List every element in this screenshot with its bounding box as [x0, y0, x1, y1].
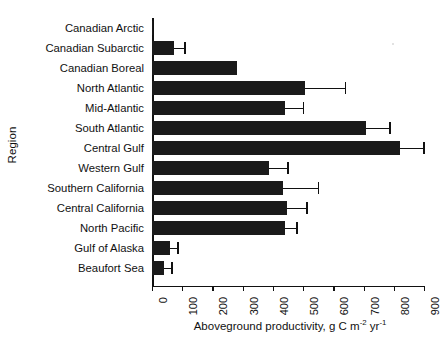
plot-area: [152, 18, 424, 286]
error-bar-cap: [171, 262, 172, 274]
error-bar-cap: [177, 242, 178, 254]
x-axis-tick-mark: [364, 286, 365, 291]
bar-row: [152, 78, 424, 98]
error-bar-line: [305, 88, 345, 89]
y-axis-tick-label: Canadian Arctic: [65, 18, 144, 38]
x-axis-tick-mark: [212, 286, 213, 291]
error-bar-line: [285, 228, 297, 229]
error-bar-cap: [345, 82, 346, 94]
bar: [152, 221, 285, 235]
bar: [152, 121, 366, 135]
x-axis-tick-label: 900: [429, 293, 441, 333]
error-bar-cap: [184, 42, 185, 54]
x-axis-tick-mark: [394, 286, 395, 291]
y-axis-tick-label: Central Gulf: [84, 138, 144, 158]
x-axis-tick-mark: [333, 286, 334, 291]
bar: [152, 161, 269, 175]
error-bar-line: [366, 128, 390, 129]
scan-artifact-speck: [392, 43, 394, 45]
x-axis-title-sup1: -2: [360, 318, 367, 327]
bar-row: [152, 58, 424, 78]
bar-row: [152, 258, 424, 278]
bar: [152, 21, 153, 35]
bar-row: [152, 238, 424, 258]
y-axis-tick-label: North Atlantic: [77, 78, 144, 98]
y-axis-title: Region: [2, 0, 22, 290]
x-axis-tick-mark: [273, 286, 274, 291]
y-axis-tick-label: Canadian Subarctic: [45, 38, 144, 58]
error-bar-line: [269, 168, 288, 169]
error-bar-cap: [306, 202, 307, 214]
error-bar-cap: [296, 222, 297, 234]
bar: [152, 61, 237, 75]
bar: [152, 81, 305, 95]
x-axis-title-mid: yr: [367, 320, 380, 332]
y-axis-tick-label: South Atlantic: [75, 118, 144, 138]
error-bar-cap: [303, 102, 304, 114]
bar-row: [152, 118, 424, 138]
error-bar-cap: [318, 182, 319, 194]
x-axis-tick-mark: [152, 286, 153, 291]
x-axis-tick-mark: [303, 286, 304, 291]
error-bar-line: [287, 208, 307, 209]
y-axis-tick-label: Beaufort Sea: [78, 258, 144, 278]
bar: [152, 261, 164, 275]
error-bar-cap: [389, 122, 390, 134]
x-axis-title: Aboveground productivity, g C m-2 yr-1: [150, 320, 430, 332]
x-axis-tick-mark: [424, 286, 425, 291]
x-axis-title-pre: Aboveground productivity, g C m: [194, 320, 360, 332]
error-bar-line: [283, 188, 318, 189]
bar: [152, 201, 287, 215]
y-axis-tick-label: North Pacific: [80, 218, 144, 238]
y-axis-tick-label: Canadian Boreal: [60, 58, 144, 78]
y-axis-tick-label: Gulf of Alaska: [74, 238, 144, 258]
bar-row: [152, 198, 424, 218]
bar-row: [152, 18, 424, 38]
bar: [152, 141, 400, 155]
bar: [152, 241, 170, 255]
error-bar-cap: [287, 162, 288, 174]
error-bar-cap: [423, 142, 424, 154]
bar-row: [152, 158, 424, 178]
bar-row: [152, 138, 424, 158]
bar: [152, 101, 285, 115]
bar-chart-figure: Region Canadian ArcticCanadian Subarctic…: [0, 0, 441, 343]
x-axis-title-sup2: -1: [379, 318, 386, 327]
x-axis-tick-mark: [182, 286, 183, 291]
y-axis-tick-label: Mid-Atlantic: [85, 98, 144, 118]
y-axis-tick-label: Southern California: [47, 178, 144, 198]
bar-row: [152, 178, 424, 198]
bar: [152, 181, 283, 195]
x-axis-tick-mark: [243, 286, 244, 291]
y-axis-tick-label: Central California: [57, 198, 144, 218]
error-bar-line: [285, 108, 303, 109]
bar-row: [152, 98, 424, 118]
y-axis-tick-labels: Canadian ArcticCanadian SubarcticCanadia…: [20, 18, 148, 286]
bar: [152, 41, 174, 55]
error-bar-line: [400, 148, 424, 149]
bar-row: [152, 218, 424, 238]
y-axis-title-text: Region: [6, 126, 18, 163]
bar-row: [152, 38, 424, 58]
y-axis-tick-label: Western Gulf: [78, 158, 144, 178]
error-bar-line: [174, 48, 185, 49]
